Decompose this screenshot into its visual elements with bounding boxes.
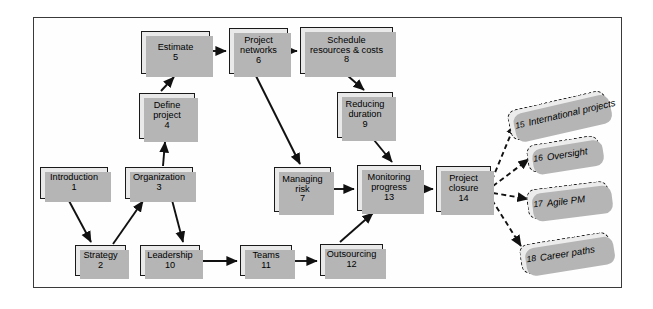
edge-n2-n3 bbox=[113, 201, 143, 244]
cloud-number: 18 bbox=[526, 253, 537, 264]
process-node-11: Teams11 bbox=[240, 245, 292, 276]
process-node-7: Managing risk7 bbox=[274, 167, 331, 212]
node-title: Leadership bbox=[147, 251, 192, 261]
edge-n6-n7 bbox=[256, 76, 300, 164]
process-node-9: Reducing duration9 bbox=[337, 92, 393, 138]
node-number: 13 bbox=[384, 193, 394, 203]
edge-n3-n10 bbox=[172, 200, 183, 242]
node-number: 3 bbox=[156, 183, 161, 193]
node-number: 9 bbox=[362, 120, 367, 130]
process-node-8: Schedule resources & costs8 bbox=[300, 27, 393, 74]
node-title: Schedule resources & costs bbox=[310, 36, 383, 56]
node-number: 6 bbox=[256, 56, 261, 66]
node-title: Reducing duration bbox=[346, 100, 385, 120]
node-title: Project networks bbox=[240, 36, 277, 56]
node-number: 10 bbox=[165, 261, 175, 271]
process-node-10: Leadership10 bbox=[140, 245, 200, 276]
node-title: Define project bbox=[153, 101, 181, 121]
node-number: 4 bbox=[164, 121, 169, 131]
node-title: Teams bbox=[252, 251, 279, 261]
edge-n14-c17 bbox=[493, 193, 528, 199]
node-title: Project closure bbox=[449, 174, 479, 194]
node-title: Estimate bbox=[158, 43, 194, 53]
process-node-3: Organization3 bbox=[125, 167, 193, 199]
cloud-number: 17 bbox=[533, 198, 544, 209]
node-number: 7 bbox=[300, 194, 305, 204]
process-node-1: Introduction1 bbox=[40, 167, 108, 199]
edge-n14-c18 bbox=[492, 200, 521, 246]
edge-n12-n13 bbox=[340, 213, 373, 242]
node-title: Monitoring progress bbox=[368, 173, 411, 193]
edge-n9-n13 bbox=[374, 140, 392, 162]
process-node-4: Define project4 bbox=[139, 93, 195, 139]
process-node-14: Project closure14 bbox=[436, 166, 491, 212]
node-title: Managing risk bbox=[282, 175, 322, 195]
edge-n1-n2 bbox=[68, 199, 91, 242]
node-number: 2 bbox=[98, 261, 103, 271]
process-node-5: Estimate5 bbox=[141, 31, 210, 74]
node-number: 12 bbox=[346, 260, 356, 270]
node-number: 1 bbox=[71, 183, 76, 193]
node-number: 11 bbox=[261, 261, 271, 271]
cloud-number: 15 bbox=[514, 118, 526, 130]
node-number: 5 bbox=[173, 53, 178, 63]
node-title: Strategy bbox=[83, 251, 117, 261]
edge-n4-n5 bbox=[161, 77, 174, 91]
cloud-number: 16 bbox=[533, 152, 544, 163]
process-node-2: Strategy2 bbox=[75, 245, 126, 276]
edge-n8-n9 bbox=[348, 76, 364, 90]
process-node-12: Outsourcing12 bbox=[320, 244, 383, 276]
node-number: 8 bbox=[344, 55, 349, 65]
process-node-13: Monitoring progress13 bbox=[357, 165, 421, 211]
edge-n3-n4 bbox=[163, 142, 165, 166]
node-number: 14 bbox=[458, 194, 468, 204]
process-node-6: Project networks6 bbox=[229, 28, 288, 74]
diagram-canvas: Estimate5Project networks6Schedule resou… bbox=[0, 0, 653, 309]
